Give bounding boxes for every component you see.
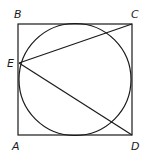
segment-ec bbox=[19, 24, 132, 63]
inscribed-circle bbox=[19, 24, 131, 136]
label-d: D bbox=[131, 140, 139, 153]
label-e: E bbox=[7, 57, 14, 70]
segment-ed bbox=[19, 63, 132, 135]
geometry-diagram: B C E A D bbox=[0, 0, 144, 156]
label-a: A bbox=[11, 140, 20, 153]
label-b: B bbox=[14, 8, 22, 21]
label-c: C bbox=[131, 8, 139, 21]
